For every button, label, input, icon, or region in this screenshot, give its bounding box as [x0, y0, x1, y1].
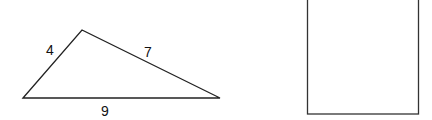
side-label-base: 9 — [101, 103, 109, 119]
side-label-left: 4 — [46, 42, 54, 58]
triangle — [23, 30, 220, 98]
diagram-canvas: 4 7 9 — [0, 0, 432, 120]
side-label-right: 7 — [144, 44, 152, 60]
rectangle — [308, 0, 419, 114]
